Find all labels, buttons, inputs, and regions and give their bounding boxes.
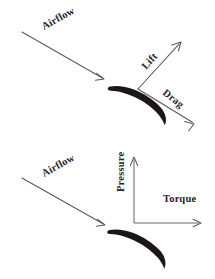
torque-label: Torque (163, 193, 196, 204)
airfoil-force-diagram: Airflow Lift Drag Airflow (0, 0, 215, 279)
diagram-background (0, 0, 215, 279)
diagram-canvas: Airflow Lift Drag Airflow (0, 0, 215, 279)
pressure-label: Pressure (115, 152, 126, 192)
